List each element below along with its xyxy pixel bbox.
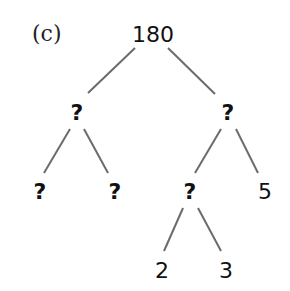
- part-label: (c): [32, 23, 62, 45]
- node-leaf-3: 3: [219, 260, 233, 282]
- node-leaf-2: 2: [155, 260, 169, 282]
- edge-right-rr: [236, 129, 258, 173]
- edge-rl-rlr: [198, 208, 221, 251]
- edge-root-right: [168, 48, 215, 94]
- node-root: 180: [132, 24, 174, 46]
- node-left: ?: [71, 102, 84, 124]
- node-right-right: 5: [258, 181, 272, 203]
- edge-root-left: [88, 48, 135, 93]
- edge-left-lr: [84, 129, 108, 173]
- factor-tree-diagram: (c) 180 ? ? ? ? ? 5 2 3: [0, 0, 290, 291]
- node-left-left: ?: [34, 181, 47, 203]
- node-right-left: ?: [184, 181, 197, 203]
- edge-right-rl: [195, 129, 221, 173]
- node-left-right: ?: [109, 181, 122, 203]
- edge-left-ll: [44, 129, 70, 173]
- edge-rl-rll: [164, 208, 183, 251]
- node-right: ?: [222, 102, 235, 124]
